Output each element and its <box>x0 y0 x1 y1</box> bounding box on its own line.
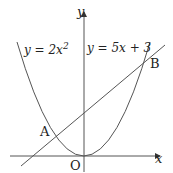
parabola-equation: y = 2x2 <box>24 42 69 56</box>
line-curve <box>21 45 165 166</box>
point-a-label: A <box>40 125 49 138</box>
graph-canvas <box>0 0 173 173</box>
parabola-exponent: 2 <box>63 41 69 51</box>
point-b-label: B <box>150 57 160 70</box>
y-axis-label: y <box>77 5 84 18</box>
parabola-equation-text: y = 2x <box>24 43 63 57</box>
x-axis-label: x <box>155 152 162 165</box>
graph-diagram: y x O y = 2x2 y = 5x + 3 A B <box>0 0 173 173</box>
line-equation: y = 5x + 3 <box>87 42 151 54</box>
origin-label: O <box>70 159 81 172</box>
